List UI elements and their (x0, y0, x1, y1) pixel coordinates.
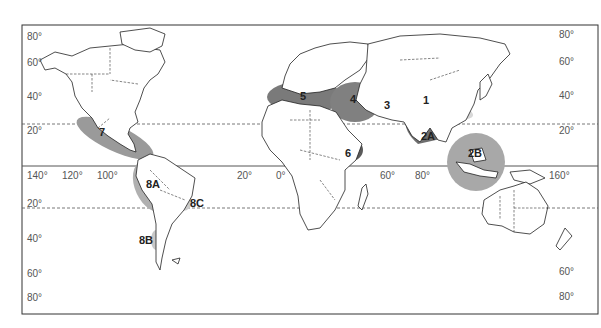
lat-label: 60° (27, 268, 42, 279)
lat-label: 20° (27, 198, 42, 209)
region-label-1: 1 (423, 94, 429, 106)
region-label-8b: 8B (139, 234, 153, 246)
lat-label: 40° (27, 233, 42, 244)
region-label-3: 3 (384, 99, 390, 111)
lat-label: 80° (27, 31, 42, 42)
lat-label: 60° (559, 266, 574, 277)
lon-label: 160° (549, 170, 570, 181)
region-label-5: 5 (300, 90, 306, 102)
lon-label: 20° (237, 170, 252, 181)
region-label-4: 4 (350, 93, 357, 105)
region-label-6: 6 (345, 147, 351, 159)
region-label-8a: 8A (146, 178, 160, 190)
lat-label: 40° (27, 91, 42, 102)
lon-label: 60° (380, 170, 395, 181)
lat-label: 80° (559, 29, 574, 40)
region-label-2a: 2A (421, 130, 435, 142)
lat-label: 60° (27, 57, 42, 68)
lon-label: 80° (415, 170, 430, 181)
region-label-8c: 8C (190, 197, 204, 209)
lat-label: 80° (27, 292, 42, 303)
region-label-7: 7 (99, 126, 105, 138)
lat-label: 40° (559, 90, 574, 101)
region-label-2b: 2B (468, 147, 482, 159)
lat-label: 20° (27, 125, 42, 136)
lon-label: 120° (62, 170, 83, 181)
lon-label: 0° (276, 170, 286, 181)
lat-label: 60° (559, 56, 574, 67)
lon-label: 100° (97, 170, 118, 181)
world-map: 1 2A 2B 3 4 5 6 7 8A 8B 8C 80° 60° 40° 2… (0, 0, 601, 328)
lon-label: 140° (27, 170, 48, 181)
lat-label: 80° (559, 291, 574, 302)
lat-label: 20° (559, 125, 574, 136)
